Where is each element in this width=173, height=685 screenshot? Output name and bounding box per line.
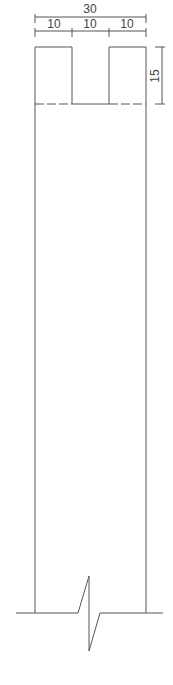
- wall-outline: [35, 47, 146, 613]
- segment-2-label: 10: [83, 17, 97, 31]
- segment-1-label: 10: [47, 17, 61, 31]
- wall-section-drawing: 30 10 10 10 15: [0, 0, 173, 685]
- notch-depth-label: 15: [148, 69, 162, 83]
- segment-3-label: 10: [120, 17, 134, 31]
- technical-drawing: 30 10 10 10 15: [0, 0, 173, 685]
- break-line: [16, 576, 163, 651]
- overall-width-label: 30: [83, 2, 97, 16]
